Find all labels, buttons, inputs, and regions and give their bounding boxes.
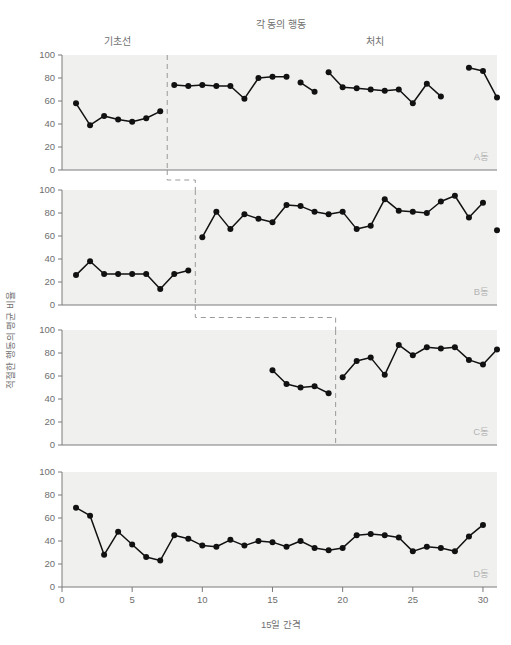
y-tick-label: 20 — [44, 276, 55, 287]
data-point — [213, 544, 219, 550]
data-point — [213, 83, 219, 89]
x-tick-label: 20 — [337, 594, 348, 605]
data-point — [410, 548, 416, 554]
data-point — [87, 122, 93, 128]
data-point — [298, 203, 304, 209]
y-axis-title: 적절한 행동의 평균 비율 — [5, 291, 16, 389]
data-point — [255, 538, 261, 544]
data-point — [284, 74, 290, 80]
y-tick-label: 40 — [44, 535, 55, 546]
data-point — [255, 75, 261, 81]
y-tick-label: 80 — [44, 207, 55, 218]
panel-plot-background — [62, 55, 497, 170]
data-point — [368, 87, 374, 93]
data-point — [494, 347, 500, 353]
data-point — [340, 374, 346, 380]
y-tick-label: 60 — [44, 370, 55, 381]
data-point — [424, 210, 430, 216]
data-point — [410, 352, 416, 358]
data-point — [438, 93, 444, 99]
y-tick-label: 40 — [44, 118, 55, 129]
data-point — [466, 533, 472, 539]
data-point — [438, 199, 444, 205]
data-point — [466, 65, 472, 71]
data-point — [326, 69, 332, 75]
data-point — [199, 234, 205, 240]
x-tick-label: 5 — [130, 594, 135, 605]
data-point — [298, 538, 304, 544]
x-axis-title: 15일 간격 — [261, 619, 301, 630]
panel-plot-background — [62, 190, 497, 305]
staircase-connector — [195, 305, 335, 330]
data-point — [354, 85, 360, 91]
data-point — [382, 88, 388, 94]
data-point — [480, 362, 486, 368]
panel-name-label: C동 — [473, 426, 489, 437]
data-point — [424, 344, 430, 350]
x-tick-label: 25 — [408, 594, 419, 605]
data-point — [284, 544, 290, 550]
y-tick-label: 80 — [44, 347, 55, 358]
data-point — [241, 543, 247, 549]
data-point — [101, 552, 107, 558]
data-point — [368, 355, 374, 361]
phase-label-baseline: 기초선 — [104, 36, 131, 47]
data-point — [396, 535, 402, 541]
data-point — [452, 193, 458, 199]
data-point — [382, 372, 388, 378]
data-point — [157, 558, 163, 564]
data-point — [340, 209, 346, 215]
x-tick-label: 15 — [267, 594, 278, 605]
data-point — [129, 541, 135, 547]
panel-name-label: D동 — [473, 568, 489, 579]
x-tick-label: 10 — [197, 594, 208, 605]
multiple-baseline-chart: 각 동의 행동기초선처치적절한 행동의 평균 비율15일 간격020406080… — [0, 0, 511, 645]
data-point — [255, 216, 261, 222]
data-point — [410, 100, 416, 106]
y-tick-label: 0 — [50, 439, 55, 450]
data-point — [129, 119, 135, 125]
panel-D동: 020406080100051015202530D동 — [39, 466, 497, 605]
panel-A동: 020406080100A동 — [39, 49, 500, 175]
data-point — [115, 271, 121, 277]
data-point — [452, 344, 458, 350]
data-point — [480, 522, 486, 528]
data-point — [241, 96, 247, 102]
data-point — [199, 82, 205, 88]
data-point — [340, 545, 346, 551]
data-point — [312, 89, 318, 95]
panel-C동: 020406080100C동 — [39, 324, 500, 450]
data-point — [241, 211, 247, 217]
data-point — [157, 108, 163, 114]
staircase-connector — [167, 170, 195, 190]
y-tick-label: 0 — [50, 164, 55, 175]
y-tick-label: 60 — [44, 230, 55, 241]
data-point — [129, 271, 135, 277]
x-tick-label: 30 — [478, 594, 489, 605]
data-point — [73, 100, 79, 106]
y-tick-label: 20 — [44, 416, 55, 427]
data-point — [269, 539, 275, 545]
data-point — [73, 272, 79, 278]
data-point — [115, 116, 121, 122]
data-point — [480, 68, 486, 74]
data-point — [494, 95, 500, 101]
panel-B동: 020406080100B동 — [39, 184, 500, 310]
data-point — [171, 271, 177, 277]
data-point — [368, 223, 374, 229]
y-tick-label: 60 — [44, 95, 55, 106]
data-point — [354, 532, 360, 538]
data-point — [382, 196, 388, 202]
data-point — [438, 345, 444, 351]
data-point — [73, 505, 79, 511]
data-point — [354, 358, 360, 364]
data-point — [87, 513, 93, 519]
y-tick-label: 100 — [39, 184, 55, 195]
data-point — [227, 83, 233, 89]
y-tick-label: 60 — [44, 512, 55, 523]
data-point — [424, 544, 430, 550]
data-point — [396, 208, 402, 214]
data-point — [354, 226, 360, 232]
data-point — [171, 532, 177, 538]
data-point — [312, 209, 318, 215]
